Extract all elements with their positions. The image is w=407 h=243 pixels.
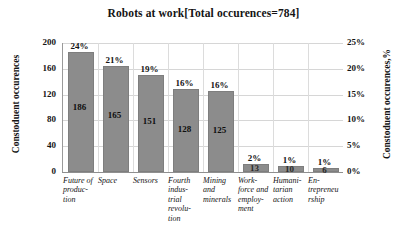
x-axis-label: Space — [98, 176, 131, 185]
bar-percent-label: 19% — [130, 64, 170, 74]
y-tick-label-left: 200 — [16, 37, 56, 47]
gridline-vertical — [203, 43, 204, 172]
bar-value-label: 128 — [165, 124, 205, 134]
bar-percent-label: 1% — [270, 155, 310, 165]
x-axis-label: Mining and minerals — [203, 176, 236, 204]
y-axis-title-right: Constoduent occurences,% — [382, 34, 392, 174]
y-tick-label-right: 15% — [347, 89, 389, 99]
y-axis-title-left: Constoduent occurences — [11, 34, 21, 174]
bar-value-label: 10 — [270, 164, 310, 174]
x-axis-label: En-trepreneurship — [308, 176, 341, 204]
y-tick-label-left: 40 — [16, 140, 56, 150]
chart-container: Robots at work[Total occurences=784] Con… — [0, 0, 407, 243]
bar-percent-label: 2% — [235, 153, 275, 163]
y-tick-label-right: 0% — [347, 166, 389, 176]
bar-value-label: 186 — [60, 102, 100, 112]
bar-percent-label: 16% — [200, 80, 240, 90]
bar-value-label: 125 — [200, 125, 240, 135]
gridline-vertical — [168, 43, 169, 172]
chart-title: Robots at work[Total occurences=784] — [0, 7, 407, 19]
y-tick-label-left: 0 — [16, 166, 56, 176]
bar-percent-label: 1% — [305, 157, 345, 167]
y-tick-label-left: 160 — [16, 63, 56, 73]
x-axis-label: Future of produc-tion — [63, 176, 96, 204]
x-axis-label: Sensors — [133, 176, 166, 185]
y-tick-label-left: 80 — [16, 114, 56, 124]
y-tick-label-left: 120 — [16, 89, 56, 99]
y-tick-label-right: 25% — [347, 37, 389, 47]
y-tick-label-right: 5% — [347, 140, 389, 150]
bar-percent-label: 21% — [95, 55, 135, 65]
y-tick-label-right: 20% — [347, 63, 389, 73]
bar-percent-label: 24% — [60, 41, 100, 51]
x-axis-label: Work-force and employ-ment — [238, 176, 271, 214]
y-tick-label-right: 10% — [347, 114, 389, 124]
bar-percent-label: 16% — [165, 78, 205, 88]
gridline-vertical — [308, 43, 309, 172]
x-axis-label: Humani-tarian action — [273, 176, 306, 204]
bar-value-label: 165 — [95, 110, 135, 120]
bar-value-label: 151 — [130, 116, 170, 126]
bar-value-label: 13 — [235, 163, 275, 173]
x-axis-label: Fourth indus-trial revolu-tion — [168, 176, 201, 223]
